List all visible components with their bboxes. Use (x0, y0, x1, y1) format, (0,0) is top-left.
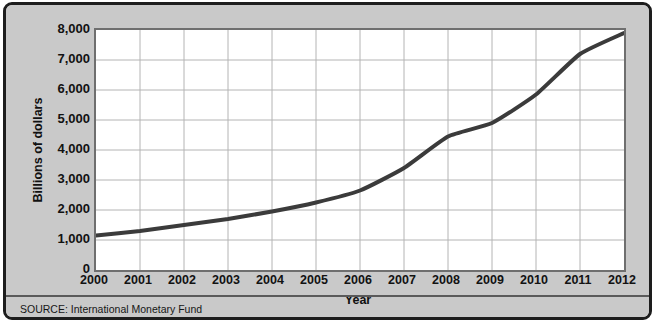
x-axis-tick-label: 2004 (256, 273, 284, 287)
source-bar: SOURCE: International Monetary Fund (6, 295, 649, 317)
x-axis-tick-label: 2008 (432, 273, 460, 287)
x-axis-tick-label: 2009 (476, 273, 504, 287)
x-axis-tick-label: 2003 (212, 273, 240, 287)
chart-figure: Billions of dollars 01,0002,0003,0004,00… (0, 0, 655, 327)
x-axis-tick-label: 2010 (520, 273, 548, 287)
x-axis-tick-label: 2001 (124, 273, 152, 287)
x-axis-tick-label: 2002 (168, 273, 196, 287)
chart-frame: Billions of dollars 01,0002,0003,0004,00… (3, 2, 652, 320)
x-axis-tick-label: 2006 (344, 273, 372, 287)
source-note: SOURCE: International Monetary Fund (20, 303, 202, 315)
x-axis-tick-label: 2012 (608, 273, 636, 287)
x-axis-tick-label: 2000 (80, 273, 108, 287)
x-axis-tick-label: 2007 (388, 273, 416, 287)
x-axis-tick-label: 2011 (564, 273, 591, 287)
x-axis-tick-label: 2005 (300, 273, 328, 287)
x-axis-ticks: 2000200120022003200420052006200720082009… (6, 5, 649, 317)
chart-panel: Billions of dollars 01,0002,0003,0004,00… (6, 5, 649, 317)
